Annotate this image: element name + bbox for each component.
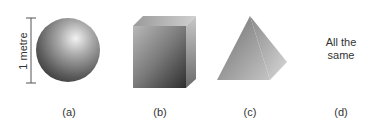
cube-shape bbox=[133, 16, 196, 88]
option-d-line-1: All the bbox=[316, 36, 366, 49]
sphere-shape bbox=[36, 18, 100, 82]
option-d-line-2: same bbox=[316, 49, 366, 62]
option-b-label: (b) bbox=[140, 106, 180, 118]
option-d-text: All the same bbox=[316, 36, 366, 62]
option-d-label: (d) bbox=[321, 106, 361, 118]
option-a-label: (a) bbox=[49, 106, 89, 118]
pyramid-shape bbox=[217, 16, 287, 80]
dimension-label: 1 metre bbox=[17, 31, 31, 71]
option-c-label: (c) bbox=[230, 106, 270, 118]
